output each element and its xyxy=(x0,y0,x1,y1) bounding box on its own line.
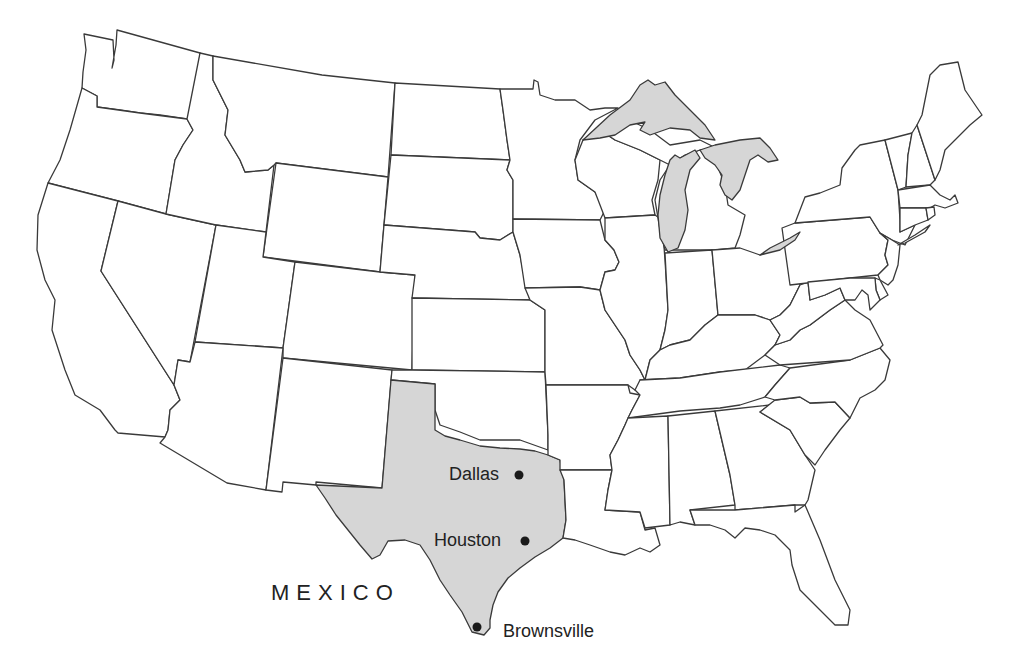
city-label-dallas: Dallas xyxy=(449,464,499,485)
city-label-brownsville: Brownsville xyxy=(503,621,594,642)
state-kansas xyxy=(412,298,545,372)
state-pennsylvania xyxy=(782,217,888,285)
state-wyoming xyxy=(263,163,388,272)
state-massachusetts xyxy=(898,185,958,208)
state-arizona xyxy=(160,342,283,490)
us-map xyxy=(0,0,1018,666)
state-colorado xyxy=(283,262,415,370)
city-label-houston: Houston xyxy=(434,530,501,551)
city-dot-dallas xyxy=(515,471,524,480)
city-dot-brownsville xyxy=(473,623,482,632)
state-new-mexico xyxy=(266,358,392,492)
state-north-dakota xyxy=(391,83,510,160)
city-dot-houston xyxy=(521,537,530,546)
state-rhode-island xyxy=(926,207,935,220)
state-florida xyxy=(690,505,850,625)
state-montana xyxy=(213,56,395,177)
country-label-mexico: MEXICO xyxy=(271,580,400,606)
